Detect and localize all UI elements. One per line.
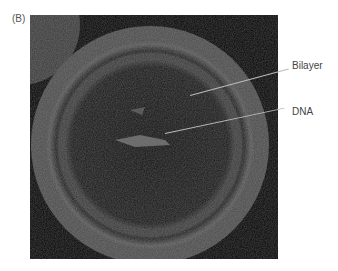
- panel-label: (B): [12, 13, 25, 24]
- micrograph-image: [30, 15, 278, 259]
- callout-dna: DNA: [292, 106, 313, 117]
- electron-micrograph: [30, 15, 278, 259]
- callout-bilayer: Bilayer: [292, 60, 323, 71]
